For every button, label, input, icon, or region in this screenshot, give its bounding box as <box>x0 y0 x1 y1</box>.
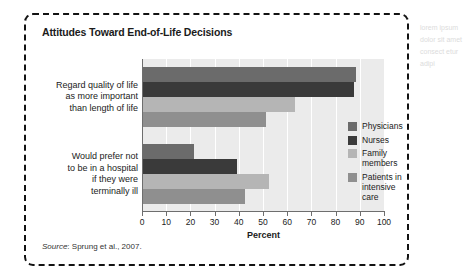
bar <box>143 97 295 112</box>
source-note: Source: Sprung et al., 2007. <box>42 242 142 251</box>
legend-item: Nurses <box>348 135 407 145</box>
x-axis-tick-label: 30 <box>203 217 227 227</box>
x-axis-title: Percent <box>142 230 385 240</box>
x-axis-tick-label: 50 <box>251 217 275 227</box>
bar <box>143 67 356 82</box>
legend-label: Family members <box>362 148 407 168</box>
page-body-text-fragment: lorem ipsum dolor sit amet consect etur … <box>420 22 468 70</box>
legend-swatch <box>348 136 357 145</box>
legend-label: Physicians <box>362 121 403 131</box>
x-axis-line <box>142 211 385 212</box>
category-label-group: Regard quality of life as more important… <box>32 15 138 268</box>
bar <box>143 112 266 127</box>
legend-item: Family members <box>348 148 407 168</box>
bar <box>143 82 354 97</box>
bar <box>143 144 194 159</box>
x-axis-tick <box>190 212 191 216</box>
x-axis-tick <box>287 212 288 216</box>
legend-swatch <box>348 149 357 158</box>
x-axis-tick <box>311 212 312 216</box>
x-axis-tick <box>142 212 143 216</box>
category-label: Regard quality of life as more important… <box>34 80 138 115</box>
legend-item: Patients in intensive care <box>348 172 407 202</box>
y-axis-line <box>142 59 143 212</box>
chart-legend: PhysiciansNursesFamily membersPatients i… <box>348 121 407 205</box>
x-axis-tick-label: 100 <box>372 217 396 227</box>
x-axis-tick-label: 10 <box>154 217 178 227</box>
x-axis-tick-label: 0 <box>130 217 154 227</box>
x-axis-tick <box>360 212 361 216</box>
figure-frame: Attitudes Toward End-of-Life Decisions R… <box>24 13 409 266</box>
x-axis-tick-label: 40 <box>227 217 251 227</box>
legend-item: Physicians <box>348 121 407 131</box>
legend-swatch <box>348 173 357 182</box>
bar <box>143 174 269 189</box>
x-axis-tick-label: 60 <box>275 217 299 227</box>
legend-label: Patients in intensive care <box>362 172 407 202</box>
x-axis-tick <box>384 212 385 216</box>
bar <box>143 159 237 174</box>
x-axis-tick <box>263 212 264 216</box>
x-axis-tick <box>166 212 167 216</box>
legend-label: Nurses <box>362 135 389 145</box>
legend-swatch <box>348 122 357 131</box>
source-citation: : Sprung et al., 2007. <box>67 242 141 251</box>
source-label: Source <box>42 242 67 251</box>
bar <box>143 189 245 204</box>
x-axis-tick <box>215 212 216 216</box>
x-axis-tick-label: 70 <box>299 217 323 227</box>
category-label: Would prefer not to be in a hospital if … <box>34 151 138 197</box>
x-axis-tick-label: 20 <box>178 217 202 227</box>
x-axis-tick-label: 80 <box>324 217 348 227</box>
x-axis-tick-label: 90 <box>348 217 372 227</box>
x-axis-tick <box>336 212 337 216</box>
x-axis-tick <box>239 212 240 216</box>
